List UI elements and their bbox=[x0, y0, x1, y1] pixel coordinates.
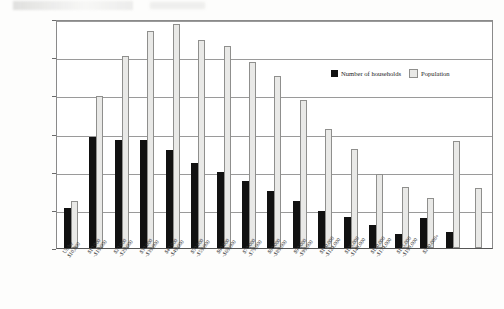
bar-households bbox=[242, 181, 249, 248]
bar-households bbox=[166, 150, 173, 248]
bar-population bbox=[453, 141, 460, 248]
bar-households bbox=[217, 172, 224, 248]
bar-population bbox=[475, 188, 482, 248]
legend-label-population: Population bbox=[421, 70, 450, 77]
bar-population bbox=[96, 96, 103, 248]
bar-population bbox=[325, 129, 332, 248]
bar-group bbox=[287, 21, 312, 248]
bar-households bbox=[89, 137, 96, 248]
legend-label-households: Number of households bbox=[341, 70, 401, 77]
bar-population bbox=[198, 40, 205, 248]
legend: Number of households Population bbox=[331, 69, 450, 78]
bar-population bbox=[122, 56, 129, 248]
bar-population bbox=[249, 62, 256, 248]
bar-group bbox=[236, 21, 261, 248]
bar-group bbox=[185, 21, 210, 248]
legend-item-population: Population bbox=[409, 69, 450, 78]
bar-chart: 3,000,0002,500,0002,000,0001,500,0001,00… bbox=[0, 0, 504, 309]
bar-households bbox=[140, 140, 147, 248]
bar-group bbox=[109, 21, 134, 248]
bar-group bbox=[440, 21, 465, 248]
legend-item-households: Number of households bbox=[331, 70, 401, 77]
x-axis-labels: Under$10,000$10,000–$19,000$20,000–$29,0… bbox=[56, 251, 493, 309]
bar-households bbox=[191, 163, 198, 248]
bar-population bbox=[274, 76, 281, 249]
bar-group bbox=[313, 21, 338, 248]
legend-swatch-population-icon bbox=[409, 69, 418, 78]
bar-group bbox=[389, 21, 414, 248]
bar-population bbox=[300, 100, 307, 248]
bar-group bbox=[466, 21, 491, 248]
y-axis-tick bbox=[52, 249, 56, 250]
bar-group bbox=[415, 21, 440, 248]
bar-groups bbox=[57, 21, 492, 248]
bar-group bbox=[338, 21, 363, 248]
bar-population bbox=[173, 24, 180, 248]
bar-households bbox=[446, 232, 453, 248]
bar-group bbox=[160, 21, 185, 248]
bar-group bbox=[364, 21, 389, 248]
bar-group bbox=[83, 21, 108, 248]
bar-group bbox=[211, 21, 236, 248]
bar-population bbox=[147, 31, 154, 248]
bar-group bbox=[262, 21, 287, 248]
plot-area bbox=[56, 20, 493, 249]
legend-swatch-households-icon bbox=[331, 70, 338, 77]
bar-group bbox=[58, 21, 83, 248]
bar-group bbox=[134, 21, 159, 248]
bar-population bbox=[224, 46, 231, 248]
bar-households bbox=[115, 140, 122, 248]
